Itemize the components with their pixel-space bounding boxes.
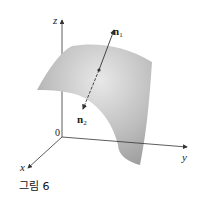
figure-caption: 그림 6 [19, 177, 50, 193]
surface [37, 44, 152, 165]
surface-diagram [0, 0, 204, 198]
x-axis [28, 137, 62, 168]
x-axis-label: x [20, 162, 25, 173]
surface-point [97, 68, 100, 71]
origin-label: 0 [55, 128, 60, 138]
n2-label: n2 [77, 114, 87, 127]
z-axis-label: z [53, 15, 57, 26]
y-axis-label: y [182, 152, 187, 163]
n1-label: n1 [113, 26, 123, 39]
